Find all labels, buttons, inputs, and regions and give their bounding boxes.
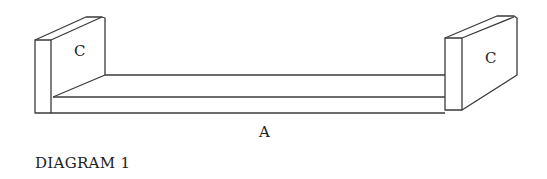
right-panel-label: C <box>485 49 496 67</box>
left-panel-label: C <box>74 42 85 60</box>
right-end-panel-c <box>445 16 517 110</box>
shelf-label: A <box>258 123 270 141</box>
shelf-board-a <box>51 75 445 113</box>
diagram-caption: DIAGRAM 1 <box>35 154 130 172</box>
shelf-diagram: C C A <box>0 0 547 179</box>
